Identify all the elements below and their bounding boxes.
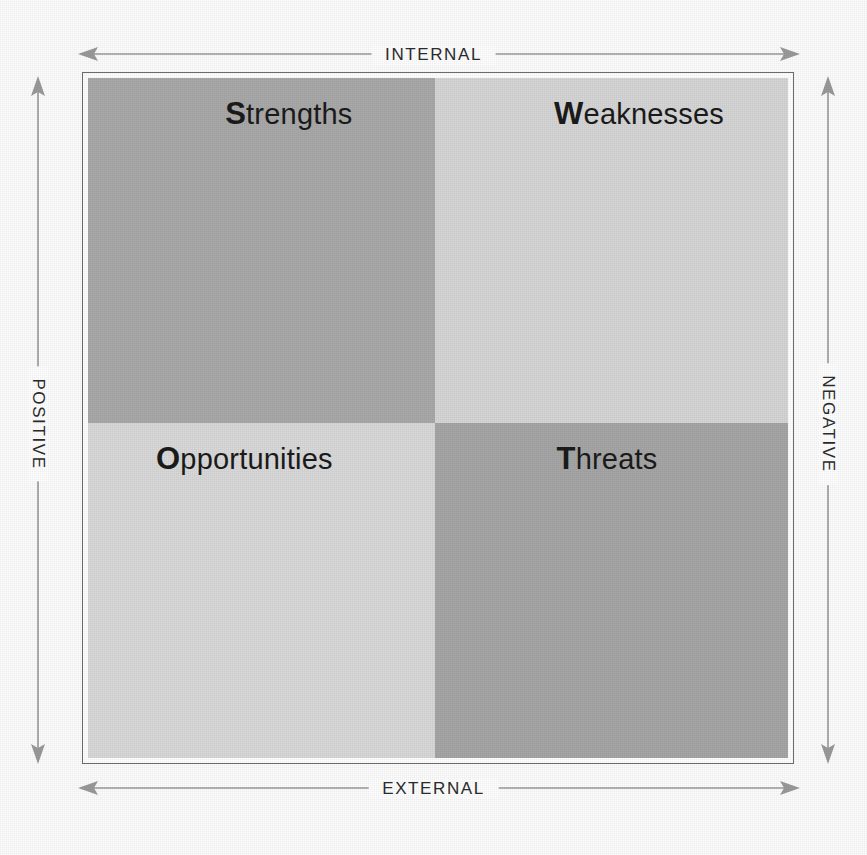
quadrant-strengths[interactable]: Strengths (88, 78, 435, 423)
quadrant-initial-w: W (554, 96, 583, 131)
quadrant-threats[interactable]: Threats (435, 423, 789, 758)
quadrant-opportunities[interactable]: Opportunities (88, 423, 435, 758)
quadrant-weaknesses[interactable]: Weaknesses (435, 78, 789, 423)
axis-label-positive: POSITIVE (28, 366, 48, 481)
swot-matrix-frame: Strengths Weaknesses Opportunities Threa… (82, 72, 794, 764)
quadrant-rest-weaknesses: eaknesses (584, 98, 724, 130)
swot-diagram: INTERNAL EXTERNAL POSITIVE NEGATIVE Stre… (0, 0, 867, 855)
axis-label-internal: INTERNAL (371, 45, 496, 65)
quadrant-label-threats: Threats (557, 441, 658, 477)
quadrant-initial-s: S (225, 96, 246, 131)
quadrant-initial-o: O (156, 441, 180, 476)
swot-quadrant-grid: Strengths Weaknesses Opportunities Threa… (88, 78, 788, 758)
quadrant-label-weaknesses: Weaknesses (554, 96, 724, 132)
quadrant-rest-strengths: trengths (246, 98, 352, 130)
axis-label-external: EXTERNAL (368, 779, 499, 799)
quadrant-initial-t: T (557, 441, 576, 476)
quadrant-label-opportunities: Opportunities (156, 441, 333, 477)
quadrant-label-strengths: Strengths (225, 96, 352, 132)
quadrant-rest-threats: hreats (576, 443, 658, 475)
axis-label-negative: NEGATIVE (818, 363, 838, 485)
quadrant-rest-opportunities: pportunities (180, 443, 332, 475)
